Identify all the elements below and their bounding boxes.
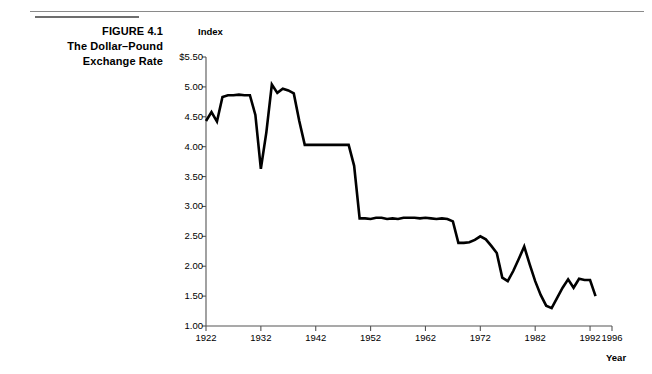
- y-axis-tick-label: $5.50: [158, 52, 203, 62]
- y-axis-tick-label-text: 4.50: [163, 112, 203, 122]
- y-axis-tick-label-text: 3.00: [163, 201, 203, 211]
- x-axis-tick-label: 1952: [351, 333, 391, 343]
- y-axis-tick-label: 2.00: [158, 261, 203, 271]
- x-axis-tick-label: 1932: [241, 333, 281, 343]
- y-axis-tick-label-text: 3.50: [163, 172, 203, 182]
- y-axis-tick-label: 4.50: [158, 112, 203, 122]
- y-axis-tick-label-text: $5.50: [163, 52, 203, 62]
- y-axis-tick-label-text: 1.00: [163, 321, 203, 331]
- y-axis-tick-label-text: 2.00: [163, 261, 203, 271]
- plot-area: [0, 0, 652, 374]
- y-axis-tick-label: 2.50: [158, 231, 203, 241]
- y-axis-tick-label: 1.50: [158, 291, 203, 301]
- x-axis-tick-label: 1922: [186, 333, 226, 343]
- y-axis-tick-label: 5.00: [158, 82, 203, 92]
- data-series-line: [206, 85, 596, 309]
- y-axis-tick-label: 4.00: [158, 142, 203, 152]
- y-axis-tick-label: 3.50: [158, 172, 203, 182]
- x-axis-tick-label: 1942: [296, 333, 336, 343]
- x-axis-tick-label: 1996: [592, 333, 632, 343]
- y-axis-tick-label-text: 2.50: [163, 231, 203, 241]
- y-axis-tick-label-text: 1.50: [163, 291, 203, 301]
- y-axis-tick-label: 1.00: [158, 321, 203, 331]
- x-axis-tick-label: 1962: [405, 333, 445, 343]
- y-axis-tick-label-text: 5.00: [163, 82, 203, 92]
- x-axis-tick-label: 1972: [460, 333, 500, 343]
- x-axis-tick-label: 1982: [515, 333, 555, 343]
- y-axis-tick-label-text: 4.00: [163, 142, 203, 152]
- y-axis-tick-label: 3.00: [158, 201, 203, 211]
- line-chart: Index Year 1.001.502.002.503.003.504.004…: [0, 0, 652, 374]
